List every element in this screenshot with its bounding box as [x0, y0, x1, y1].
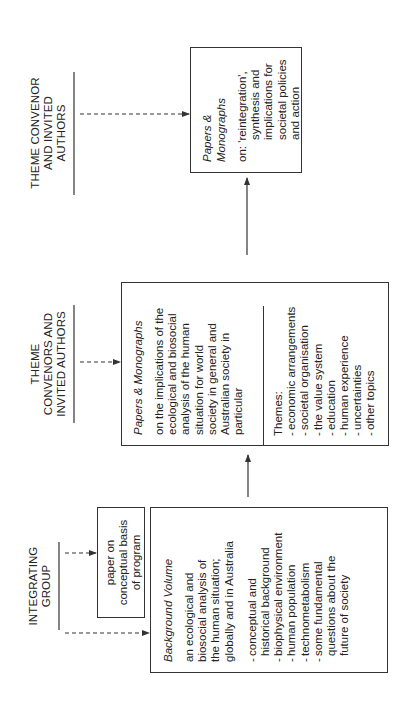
theme-item: education [325, 286, 338, 436]
themes-divider [263, 306, 264, 446]
papers-top-description: on: 'reintegration', synthesis and impli… [236, 58, 302, 162]
background-volume-title: Background Volume [161, 518, 175, 662]
group-label-integrating: INTEGRATING GROUP [27, 538, 53, 634]
themes-label: Themes: [272, 286, 285, 436]
papers-monographs-top-box: Papers & Monographs on: 'reintegration',… [190, 47, 302, 173]
topic-item: human population [285, 518, 298, 662]
theme-item: the value system [312, 286, 325, 436]
theme-item: economic arrangements [285, 286, 298, 436]
theme-item: uncertainties [351, 286, 364, 436]
flow-diagram: INTEGRATING GROUP THEME CONVENORS AND IN… [0, 0, 412, 704]
paper-box: paper on conceptual basis of program [97, 507, 145, 618]
themes-section: Themes: economic arrangements societal o… [272, 286, 378, 436]
topic-item: some fundamental questions about the fut… [312, 518, 352, 662]
papers-mid-description: on the implications of the ecological an… [153, 293, 245, 435]
group-label-theme-convenor: THEME CONVENOR AND INVITED AUTHORS [29, 68, 68, 198]
theme-item: human experience [338, 286, 351, 436]
themes-list: economic arrangements societal organisat… [285, 286, 377, 436]
topic-item: technometabolism [299, 518, 312, 662]
theme-item: societal organisation [298, 286, 311, 436]
topic-item: conceptual and historical background [246, 518, 272, 662]
group-label-theme-convenors: THEME CONVENORS AND INVITED AUTHORS [29, 300, 68, 428]
papers-mid-title: Papers & Monographs [131, 293, 145, 435]
background-volume-description: an ecological and biosocial analysis of … [183, 518, 236, 662]
background-volume-topics: conceptual and historical background bio… [246, 518, 352, 662]
background-volume-box: Background Volume an ecological and bios… [150, 507, 388, 673]
papers-top-title: Papers & Monographs [200, 58, 228, 162]
topic-item: biophysical environment [272, 518, 285, 662]
theme-item: other topics [364, 286, 377, 436]
